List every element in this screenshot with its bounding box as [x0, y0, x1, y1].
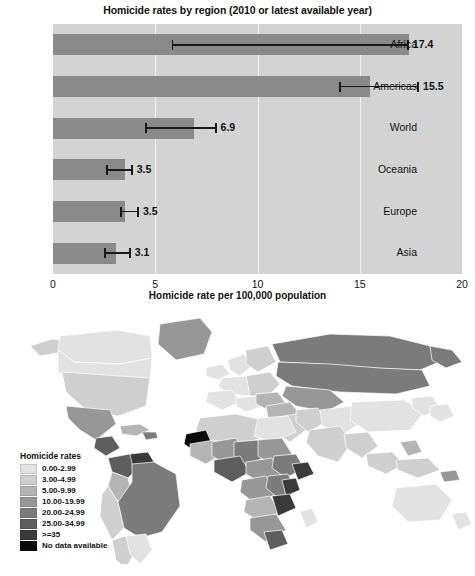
error-bar-line: [172, 44, 409, 46]
gridline: [155, 24, 156, 274]
error-bar-cap: [137, 207, 139, 217]
map-legend-label: No data available: [42, 541, 107, 550]
bar-americas: [53, 76, 370, 97]
map-legend-label: 0.00-2.99: [42, 464, 76, 473]
error-bar-cap: [120, 207, 122, 217]
map-legend-label: 3.00-4.99: [42, 475, 76, 484]
map-legend-swatch: [20, 541, 37, 551]
map-legend-swatch: [20, 475, 37, 485]
bar-europe: [53, 201, 125, 222]
x-tick-label: 20: [456, 278, 468, 290]
y-axis-label-europe: Europe: [383, 205, 417, 217]
x-tick-label: 10: [252, 278, 264, 290]
y-axis-label-oceania: Oceania: [378, 163, 417, 175]
error-bar-line: [120, 211, 138, 213]
map-legend: Homicide rates 0.00-2.993.00-4.995.00-9.…: [20, 451, 140, 551]
bar-value-label: 3.5: [137, 163, 152, 175]
map-caption: [0, 568, 475, 576]
bar-value-label: 6.9: [221, 121, 236, 133]
map-legend-swatch: [20, 519, 37, 529]
error-bar-cap: [339, 82, 341, 92]
map-legend-item: >=35: [20, 529, 140, 540]
map-legend-swatch: [20, 508, 37, 518]
bar-value-label: 3.1: [135, 246, 150, 258]
bar-value-label: 17.4: [413, 38, 433, 50]
y-axis-label-americas: Americas: [373, 80, 417, 92]
map-legend-item: 3.00-4.99: [20, 474, 140, 485]
map-region-canada-north: [58, 330, 152, 364]
error-bar-line: [104, 252, 131, 254]
bar-value-label: 15.5: [423, 80, 443, 92]
map-legend-item: 0.00-2.99: [20, 463, 140, 474]
map-legend-swatch: [20, 497, 37, 507]
y-axis-label-asia: Asia: [397, 246, 417, 258]
gridline: [360, 24, 361, 274]
map-legend-swatch: [20, 530, 37, 540]
world-map-figure: Homicide rates 0.00-2.993.00-4.995.00-9.…: [0, 306, 475, 576]
error-bar-cap: [104, 248, 106, 258]
map-legend-item: 25.00-34.99: [20, 518, 140, 529]
map-legend-label: 10.00-19.99: [42, 497, 85, 506]
error-bar-cap: [129, 248, 131, 258]
map-legend-item: 5.00-9.99: [20, 485, 140, 496]
chart-title: Homicide rates by region (2010 or latest…: [0, 4, 475, 16]
map-legend-label: 25.00-34.99: [42, 519, 85, 528]
map-legend-swatch: [20, 486, 37, 496]
error-bar-line: [145, 127, 217, 129]
map-legend-item: 20.00-24.99: [20, 507, 140, 518]
map-legend-item: 10.00-19.99: [20, 496, 140, 507]
map-legend-rows: 0.00-2.993.00-4.995.00-9.9910.00-19.9920…: [20, 463, 140, 551]
error-bar-cap: [131, 165, 133, 175]
x-tick-label: 5: [152, 278, 158, 290]
map-legend-label: 5.00-9.99: [42, 486, 76, 495]
error-bar-cap: [106, 165, 108, 175]
map-legend-swatch: [20, 464, 37, 474]
map-legend-label: 20.00-24.99: [42, 508, 85, 517]
map-region-png: [440, 470, 460, 482]
error-bar-line: [106, 169, 133, 171]
bar-chart-plot-area: [53, 24, 462, 274]
x-axis-title: Homicide rate per 100,000 population: [0, 290, 475, 301]
gridline: [258, 24, 259, 274]
error-bar-cap: [417, 82, 419, 92]
x-tick-label: 15: [354, 278, 366, 290]
bar-value-label: 3.5: [143, 205, 158, 217]
map-legend-label: >=35: [42, 530, 60, 539]
x-tick-label: 0: [50, 278, 56, 290]
map-legend-title: Homicide rates: [20, 451, 140, 461]
y-axis-label-world: World: [390, 121, 417, 133]
error-bar-cap: [145, 123, 147, 133]
bar-chart-figure: Homicide rates by region (2010 or latest…: [0, 0, 475, 302]
error-bar-cap: [215, 123, 217, 133]
map-legend-item: No data available: [20, 540, 140, 551]
error-bar-cap: [172, 40, 174, 50]
